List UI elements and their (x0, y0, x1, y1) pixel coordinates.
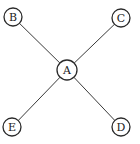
node-label: C (117, 12, 125, 25)
node-label: D (117, 121, 126, 134)
edge-a-b (19, 23, 59, 63)
node-c: C (112, 9, 130, 27)
node-b: B (4, 8, 22, 26)
graph-svg: ABCDE (0, 0, 140, 144)
node-a: A (57, 60, 77, 80)
node-label: E (8, 121, 16, 134)
node-label: A (62, 64, 72, 77)
edge-a-c (74, 24, 114, 63)
node-d: D (112, 118, 130, 136)
edge-a-e (18, 77, 60, 120)
diagram-canvas: ABCDE (0, 0, 140, 144)
node-e: E (3, 118, 21, 136)
edge-a-d (74, 77, 115, 120)
node-label: B (9, 11, 17, 24)
